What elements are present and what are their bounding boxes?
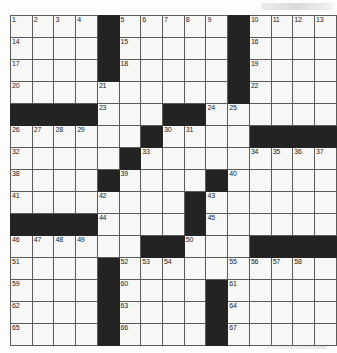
crossword-cell-open[interactable]: [271, 214, 293, 236]
crossword-cell-open[interactable]: [249, 192, 271, 214]
crossword-cell-numbered[interactable]: 33: [141, 148, 163, 170]
crossword-cell-numbered[interactable]: 36: [293, 148, 315, 170]
crossword-cell-numbered[interactable]: 28: [54, 126, 76, 148]
crossword-cell-numbered[interactable]: 26: [11, 126, 33, 148]
crossword-cell-open[interactable]: [76, 60, 98, 82]
crossword-cell-open[interactable]: [32, 302, 54, 324]
crossword-cell-numbered[interactable]: 65: [11, 324, 33, 346]
crossword-cell-numbered[interactable]: 27: [32, 126, 54, 148]
crossword-cell-numbered[interactable]: 35: [271, 148, 293, 170]
crossword-cell-open[interactable]: [163, 60, 185, 82]
crossword-cell-open[interactable]: [315, 60, 337, 82]
crossword-cell-open[interactable]: [184, 170, 206, 192]
crossword-cell-open[interactable]: [76, 302, 98, 324]
crossword-cell-open[interactable]: [141, 38, 163, 60]
crossword-cell-numbered[interactable]: 11: [271, 16, 293, 38]
crossword-cell-open[interactable]: [32, 258, 54, 280]
crossword-cell-numbered[interactable]: 54: [163, 258, 185, 280]
crossword-cell-numbered[interactable]: 9: [206, 16, 228, 38]
crossword-cell-open[interactable]: [32, 192, 54, 214]
crossword-cell-numbered[interactable]: 21: [97, 82, 119, 104]
crossword-cell-numbered[interactable]: 17: [11, 60, 33, 82]
crossword-cell-open[interactable]: [184, 82, 206, 104]
crossword-cell-numbered[interactable]: 58: [293, 258, 315, 280]
crossword-cell-numbered[interactable]: 5: [119, 16, 141, 38]
crossword-cell-numbered[interactable]: 20: [11, 82, 33, 104]
crossword-cell-open[interactable]: [54, 170, 76, 192]
crossword-cell-open[interactable]: [249, 302, 271, 324]
crossword-cell-open[interactable]: [228, 192, 250, 214]
crossword-cell-numbered[interactable]: 50: [184, 236, 206, 258]
crossword-cell-numbered[interactable]: 46: [11, 236, 33, 258]
crossword-cell-open[interactable]: [271, 60, 293, 82]
crossword-cell-open[interactable]: [315, 280, 337, 302]
crossword-cell-open[interactable]: [54, 258, 76, 280]
crossword-cell-numbered[interactable]: 1: [11, 16, 33, 38]
crossword-cell-numbered[interactable]: 12: [293, 16, 315, 38]
crossword-cell-open[interactable]: [54, 280, 76, 302]
crossword-cell-open[interactable]: [119, 104, 141, 126]
crossword-cell-open[interactable]: [315, 82, 337, 104]
crossword-cell-open[interactable]: [76, 170, 98, 192]
crossword-cell-open[interactable]: [163, 38, 185, 60]
crossword-cell-open[interactable]: [184, 302, 206, 324]
crossword-cell-open[interactable]: [228, 236, 250, 258]
crossword-cell-open[interactable]: [293, 192, 315, 214]
crossword-cell-open[interactable]: [249, 280, 271, 302]
crossword-cell-open[interactable]: [163, 324, 185, 346]
crossword-cell-numbered[interactable]: 13: [315, 16, 337, 38]
crossword-cell-open[interactable]: [293, 38, 315, 60]
crossword-cell-open[interactable]: [315, 258, 337, 280]
crossword-cell-open[interactable]: [32, 38, 54, 60]
crossword-cell-open[interactable]: [32, 148, 54, 170]
crossword-cell-open[interactable]: [119, 82, 141, 104]
crossword-cell-open[interactable]: [97, 148, 119, 170]
crossword-cell-open[interactable]: [228, 214, 250, 236]
crossword-cell-open[interactable]: [54, 82, 76, 104]
crossword-cell-numbered[interactable]: 37: [315, 148, 337, 170]
crossword-cell-open[interactable]: [293, 170, 315, 192]
crossword-cell-numbered[interactable]: 60: [119, 280, 141, 302]
crossword-cell-open[interactable]: [315, 324, 337, 346]
crossword-cell-open[interactable]: [32, 82, 54, 104]
crossword-cell-numbered[interactable]: 25: [228, 104, 250, 126]
crossword-cell-numbered[interactable]: 32: [11, 148, 33, 170]
crossword-cell-numbered[interactable]: 23: [97, 104, 119, 126]
crossword-cell-numbered[interactable]: 38: [11, 170, 33, 192]
crossword-cell-numbered[interactable]: 49: [76, 236, 98, 258]
crossword-cell-numbered[interactable]: 64: [228, 302, 250, 324]
crossword-cell-open[interactable]: [119, 236, 141, 258]
crossword-cell-numbered[interactable]: 6: [141, 16, 163, 38]
crossword-cell-open[interactable]: [293, 60, 315, 82]
crossword-cell-open[interactable]: [141, 170, 163, 192]
crossword-cell-numbered[interactable]: 44: [97, 214, 119, 236]
crossword-cell-open[interactable]: [184, 324, 206, 346]
crossword-cell-numbered[interactable]: 29: [76, 126, 98, 148]
crossword-cell-numbered[interactable]: 16: [249, 38, 271, 60]
crossword-cell-numbered[interactable]: 67: [228, 324, 250, 346]
crossword-cell-numbered[interactable]: 19: [249, 60, 271, 82]
crossword-cell-open[interactable]: [293, 104, 315, 126]
crossword-cell-numbered[interactable]: 8: [184, 16, 206, 38]
crossword-cell-numbered[interactable]: 31: [184, 126, 206, 148]
crossword-cell-open[interactable]: [32, 280, 54, 302]
crossword-cell-open[interactable]: [184, 60, 206, 82]
crossword-cell-open[interactable]: [249, 214, 271, 236]
crossword-cell-open[interactable]: [271, 324, 293, 346]
crossword-cell-open[interactable]: [184, 280, 206, 302]
crossword-cell-open[interactable]: [141, 60, 163, 82]
crossword-cell-open[interactable]: [141, 280, 163, 302]
crossword-cell-numbered[interactable]: 51: [11, 258, 33, 280]
crossword-cell-open[interactable]: [54, 302, 76, 324]
crossword-cell-open[interactable]: [228, 148, 250, 170]
crossword-cell-open[interactable]: [141, 82, 163, 104]
crossword-cell-numbered[interactable]: 53: [141, 258, 163, 280]
crossword-cell-open[interactable]: [249, 170, 271, 192]
crossword-cell-open[interactable]: [206, 126, 228, 148]
crossword-cell-open[interactable]: [76, 258, 98, 280]
crossword-cell-numbered[interactable]: 24: [206, 104, 228, 126]
crossword-cell-open[interactable]: [76, 324, 98, 346]
crossword-cell-open[interactable]: [76, 82, 98, 104]
crossword-cell-open[interactable]: [206, 60, 228, 82]
crossword-cell-open[interactable]: [141, 192, 163, 214]
